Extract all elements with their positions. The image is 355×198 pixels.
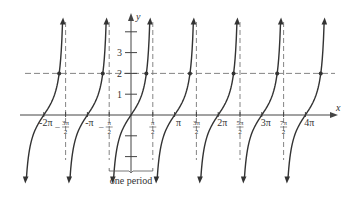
x-tick-label-fraction: π2 — [149, 119, 156, 136]
tangent-branch — [70, 23, 106, 177]
marked-point — [275, 71, 279, 75]
x-tick-label: -2π — [39, 117, 52, 128]
one-period-annotation: one period — [110, 175, 153, 186]
arrow-up-icon — [103, 17, 109, 24]
tangent-branch — [201, 23, 237, 177]
svg-text:2: 2 — [282, 128, 286, 136]
asymptote-lines — [66, 22, 284, 160]
arrow-down-icon — [197, 176, 203, 183]
arrow-up-icon — [321, 17, 327, 24]
tangent-branch — [26, 23, 62, 177]
marked-point — [101, 71, 105, 75]
y-axis-label: y — [135, 11, 141, 22]
x-tick-label-fraction: 3π2– — [54, 119, 69, 136]
tangent-curves — [23, 17, 327, 183]
marked-point — [144, 71, 148, 75]
arrow-up-icon — [60, 17, 66, 24]
svg-text:–: – — [54, 121, 60, 131]
x-axis-label: x — [335, 102, 341, 113]
svg-text:2: 2 — [151, 128, 155, 136]
y-axis-arrow-icon — [128, 13, 134, 21]
arrow-up-icon — [234, 17, 240, 24]
x-tick-label: 3π — [261, 117, 271, 128]
arrow-up-icon — [278, 17, 284, 24]
tangent-branch — [244, 23, 280, 177]
svg-text:2: 2 — [238, 128, 242, 136]
y-tick-label-2: 2 — [117, 68, 122, 79]
x-tick-label-fraction: 5π2 — [236, 119, 244, 136]
x-tick-label: 2π — [217, 117, 227, 128]
svg-text:5π: 5π — [236, 119, 244, 127]
svg-text:π: π — [151, 119, 155, 127]
tangent-graph: -2π3π2–-ππ2–π2π3π22π5π23π7π24π x y 1 2 3… — [0, 0, 355, 198]
arrow-up-icon — [147, 17, 153, 24]
x-tick-label: -π — [85, 117, 93, 128]
x-tick-label-fraction: 3π2 — [193, 119, 201, 136]
svg-text:2: 2 — [195, 128, 199, 136]
svg-text:2: 2 — [107, 128, 111, 136]
x-tick-label-fraction: π2– — [98, 119, 113, 136]
svg-text:–: – — [98, 121, 104, 131]
marked-point — [232, 71, 236, 75]
svg-text:π: π — [107, 119, 111, 127]
y-tick-label-1: 1 — [117, 89, 122, 100]
y-tick-label-3: 3 — [117, 47, 122, 58]
arrow-down-icon — [23, 176, 29, 183]
arrow-down-icon — [284, 176, 290, 183]
arrow-down-icon — [241, 176, 247, 183]
x-tick-label-fraction: 7π2 — [280, 119, 288, 136]
marked-point — [57, 71, 61, 75]
svg-text:2: 2 — [64, 128, 68, 136]
svg-text:3π: 3π — [193, 119, 201, 127]
arrow-up-icon — [191, 17, 197, 24]
arrow-down-icon — [66, 176, 72, 183]
tangent-branch — [157, 23, 193, 177]
x-tick-label: 4π — [304, 117, 314, 128]
marked-point — [188, 71, 192, 75]
marked-point — [319, 71, 323, 75]
tangent-branch — [288, 23, 324, 177]
axes — [20, 13, 338, 172]
x-tick-label: π — [176, 117, 181, 128]
svg-text:7π: 7π — [280, 119, 288, 127]
svg-text:3π: 3π — [62, 119, 70, 127]
arrow-down-icon — [154, 176, 160, 183]
